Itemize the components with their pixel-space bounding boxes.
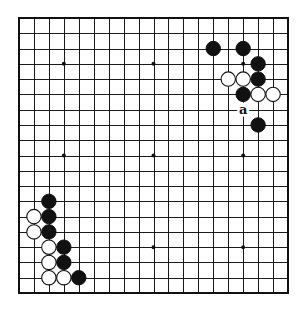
white-stone (221, 72, 235, 86)
go-board: a (0, 0, 305, 315)
star-point (241, 245, 245, 249)
star-points (62, 62, 245, 249)
star-point (152, 245, 156, 249)
white-stone (27, 225, 41, 239)
black-stone (57, 255, 71, 269)
white-stone (27, 209, 41, 223)
white-stone (251, 87, 265, 101)
star-point (152, 62, 156, 66)
black-stone (57, 240, 71, 254)
star-point (152, 154, 156, 158)
point-labels: a (237, 102, 249, 117)
white-stone (42, 255, 56, 269)
black-stone (72, 271, 86, 285)
white-stone (42, 240, 56, 254)
black-stone (42, 209, 56, 223)
star-point (241, 154, 245, 158)
star-point (62, 154, 66, 158)
white-stone (236, 72, 250, 86)
white-stone (57, 271, 71, 285)
point-label: a (239, 102, 248, 117)
black-stone (42, 225, 56, 239)
white-stone (266, 87, 280, 101)
black-stone (42, 194, 56, 208)
black-stone (236, 41, 250, 55)
black-stone (251, 57, 265, 71)
black-stone (236, 87, 250, 101)
star-point (62, 62, 66, 66)
white-stone (42, 271, 56, 285)
black-stone (251, 72, 265, 86)
black-stone (206, 41, 220, 55)
black-stone (251, 118, 265, 132)
star-point (241, 62, 245, 66)
